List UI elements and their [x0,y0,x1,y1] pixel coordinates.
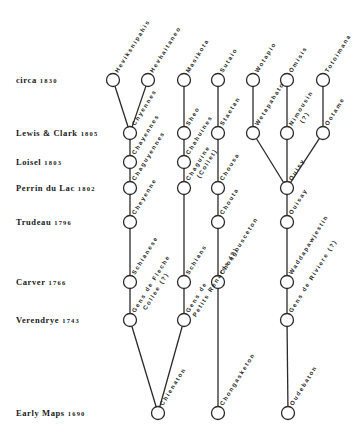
node-label: Schianese [131,235,159,276]
label-totoimana: Totoimana [324,33,353,74]
node-label: Schians [185,243,208,275]
node-masikota [178,74,191,87]
node-ouisay [281,216,294,229]
row-year: 1690 [68,410,86,417]
node-nimousin [281,127,294,140]
node-label: Wetapahato [254,81,286,127]
node-sutaio [212,74,225,87]
label-sheo: Sheo [185,105,201,126]
node-label: Gens de Riviere (?) [288,238,338,313]
label-hevhaitaneo: Hevhaitaneo [149,25,182,73]
row-year: 1743 [62,317,80,324]
node-gens-de-petits-renards [178,314,191,327]
label-chongasketon: Chongasketon [219,352,256,407]
node-label: Heviksnipahis [114,18,151,73]
node-chayennes [124,156,137,169]
row-source-name: Verendrye [16,315,59,325]
node-chongasketon [212,407,225,420]
node-cheyenne [124,216,137,229]
row-source-name: Lewis & Clark [16,128,78,138]
node-label: Ootame [324,96,346,126]
row-source-name: Trudeau [16,217,51,227]
node-label: Chienaton [159,366,187,406]
row-label-circa: circa1830 [16,75,58,85]
row-source-name: Early Maps [16,408,65,418]
node-chaguine [178,182,191,195]
label-chienaton: Chienaton [159,366,187,406]
node-label: Sutaio [219,47,239,74]
row-source-name: Carver [16,277,46,287]
label-oudebaton: Oudebaton [289,364,319,406]
row-year: 1796 [54,219,72,226]
row-year: 1803 [44,159,62,166]
node-wetapahato [247,127,260,140]
node-staetan [212,127,225,140]
node-sheo [178,127,191,140]
row-year: 1805 [81,130,99,137]
row-label-carver: Carver1766 [16,277,66,287]
band-name-diagram: circa1830Lewis & Clark1805Loisel1803Perr… [0,0,363,435]
node-gens-de-fleche-collee [124,314,137,327]
node-waddapawjestin [281,276,294,289]
row-source-name: Perrin du Lac [16,183,75,193]
row-year: 1802 [78,185,96,192]
row-source-name: Loisel [16,157,41,167]
node-label: Oudebaton [289,364,319,406]
label-ootame: Ootame [324,96,346,126]
node-totoimana [317,74,330,87]
edge-gens-de-fleche-collee-chienaton [132,326,156,407]
node-chouta [212,216,225,229]
label-gens-de-riviere: Gens de Riviere (?) [288,238,338,313]
label-wotapio: Wotapio [254,41,278,74]
row-label-trudeau: Trudeau1796 [16,217,72,227]
label-nimousin: Nimousin(?) [288,89,321,130]
label-schianese: Schianese [131,235,159,276]
label-schians: Schians [185,243,208,275]
node-schians [178,276,191,289]
node-schianese [124,276,137,289]
node-label: Wotapio [254,41,278,74]
label-chaguyennes: Chaguyennes [131,130,166,181]
node-gens-de-riviere [281,314,294,327]
node-chahuines [178,156,191,169]
node-label: Masikota [185,38,210,74]
row-label-lewis-clark: Lewis & Clark1805 [16,128,98,138]
node-chousa [212,182,225,195]
node-heviksnipahis [107,74,120,87]
label-omisis: Omisis [288,45,309,73]
edge-gens-de-riviere-oudebaton [287,326,288,406]
node-hevhaitaneo [142,74,155,87]
row-label-early-maps: Early Maps1690 [16,408,86,418]
label-staetan: Staetan [219,95,242,126]
node-ouisy [281,182,294,195]
node-ootame [317,127,330,140]
row-source-name: circa [16,75,37,85]
node-label: Hevhaitaneo [149,25,182,73]
label-sutaio: Sutaio [219,47,239,74]
node-label: Totoimana [324,33,353,74]
node-oudebaton [282,407,295,420]
node-label: Ouisy [288,157,306,181]
node-label: Sheo [185,105,201,126]
node-chienaton [152,407,165,420]
row-label-perrin: Perrin du Lac1802 [16,183,96,193]
node-label: Chaguyennes [131,130,166,181]
node-label: Staetan [219,95,242,126]
node-label: Omisis [288,45,309,73]
label-wetapahato: Wetapahato [254,81,286,127]
edge-wetapahato-ouisy [256,139,283,183]
label-heviksnipahis: Heviksnipahis [114,18,151,73]
node-wotapio [247,74,260,87]
label-chousa: Chousa [219,152,241,182]
label-masikota: Masikota [185,38,210,74]
edge-heviksnipahis-chyennes [115,86,128,127]
row-year: 1766 [49,279,67,286]
row-year: 1830 [40,77,58,84]
row-label-loisel: Loisel1803 [16,157,62,167]
row-label-verendrye: Verendrye1743 [16,315,80,325]
node-label: Chongasketon [219,352,256,407]
node-chaguyennes [124,182,137,195]
node-chyennes [124,127,137,140]
node-label: Chousa [219,152,241,182]
label-ouisy: Ouisy [288,157,306,181]
